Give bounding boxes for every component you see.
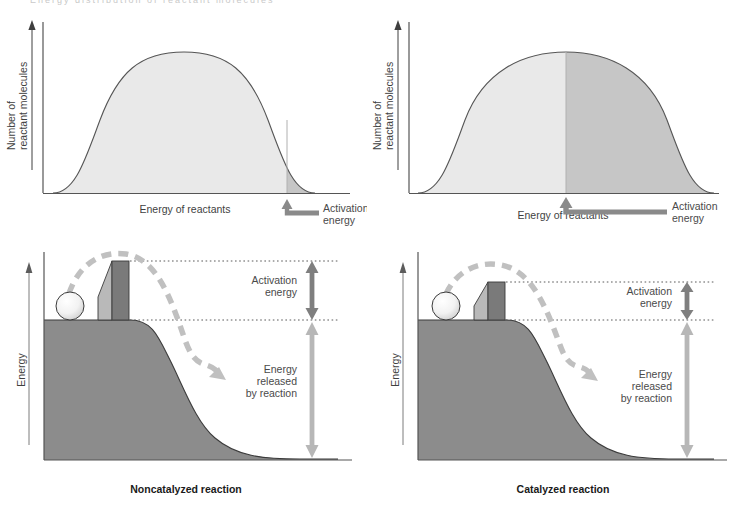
panel-caption: Noncatalyzed reaction (130, 483, 241, 495)
y-axis-label-line2: reactant molecules (383, 62, 395, 150)
reactant-ball-circle (56, 292, 84, 320)
reactant-ball (56, 292, 84, 320)
activation-energy-arrow (282, 199, 320, 216)
y-axis-label-group: Energy (15, 262, 32, 445)
activation-energy-label-line1: Activation (323, 202, 367, 214)
energy-released-measure: Energy released by reaction (621, 322, 694, 458)
activation-energy-measure: Activation energy (251, 261, 318, 320)
y-axis-arrow-head (394, 20, 401, 30)
panel-caption: Catalyzed reaction (517, 483, 610, 495)
x-axis-label: Energy of reactants (139, 203, 230, 215)
reactant-ball-circle (432, 292, 460, 320)
barrier-left-face (474, 282, 488, 320)
activation-energy-arrow (560, 197, 668, 215)
energy-released-double-arrow (306, 322, 319, 458)
activation-energy-label-line2: energy (323, 214, 356, 226)
reactant-ball (432, 292, 460, 320)
energy-released-double-arrow (681, 322, 694, 458)
y-axis-label-group: Energy (389, 262, 406, 445)
energy-released-label-line3: by reaction (621, 392, 673, 404)
energy-barrier (98, 261, 129, 320)
activation-energy-double-arrow (306, 261, 319, 320)
y-axis-label-line2: reactant molecules (17, 62, 29, 150)
energy-released-measure: Energy released by reaction (246, 322, 319, 458)
panel-top-right: reactant molecules Number of Energy of r… (367, 0, 734, 240)
y-axis-label-line1: Number of (371, 101, 383, 150)
energy-barrier (474, 282, 505, 320)
barrier-right-face (488, 282, 505, 320)
activation-energy-label-line1: Activation (251, 274, 297, 286)
activation-energy-label-line2: energy (640, 297, 673, 309)
y-axis-arrow-head (26, 262, 33, 273)
y-axis-label: Energy (389, 353, 401, 387)
activation-energy-label-line2: energy (265, 286, 298, 298)
panel-top-left: reactant molecules Number of Energy of r… (0, 0, 367, 240)
energy-released-label-line1: Energy (639, 368, 673, 380)
activation-energy-measure: Activation energy (626, 282, 693, 320)
activation-energy-callout: Activation energy (282, 199, 368, 226)
distribution-area (418, 52, 714, 193)
distribution-area-light (53, 52, 315, 193)
energy-released-label-line2: released (257, 375, 297, 387)
energy-released-label-line3: by reaction (246, 387, 298, 399)
y-axis-arrow-head (28, 20, 35, 30)
energy-released-label-line2: released (632, 380, 672, 392)
panel-bottom-right: Energy Activation energy Energy released… (367, 240, 734, 513)
activation-energy-double-arrow (681, 282, 694, 320)
barrier-right-face (112, 261, 129, 320)
energy-released-label-line1: Energy (264, 363, 298, 375)
y-axis-label-group: reactant molecules Number of (5, 20, 36, 170)
y-axis-label-line1: Number of (5, 101, 17, 150)
activation-energy-label-line2: energy (672, 212, 705, 224)
activation-energy-label-line1: Activation (626, 285, 672, 297)
barrier-left-face (98, 261, 112, 320)
distribution-area (53, 52, 315, 193)
activation-energy-label-line1: Activation (672, 200, 718, 212)
figure-root: Energy distribution of reactant molecule… (0, 0, 734, 513)
y-axis-label-group: reactant molecules Number of (371, 20, 402, 170)
panel-bottom-left: Energy Activation energy Energy released… (0, 240, 367, 513)
y-axis-label: Energy (15, 353, 27, 387)
y-axis-arrow-head (400, 262, 407, 273)
